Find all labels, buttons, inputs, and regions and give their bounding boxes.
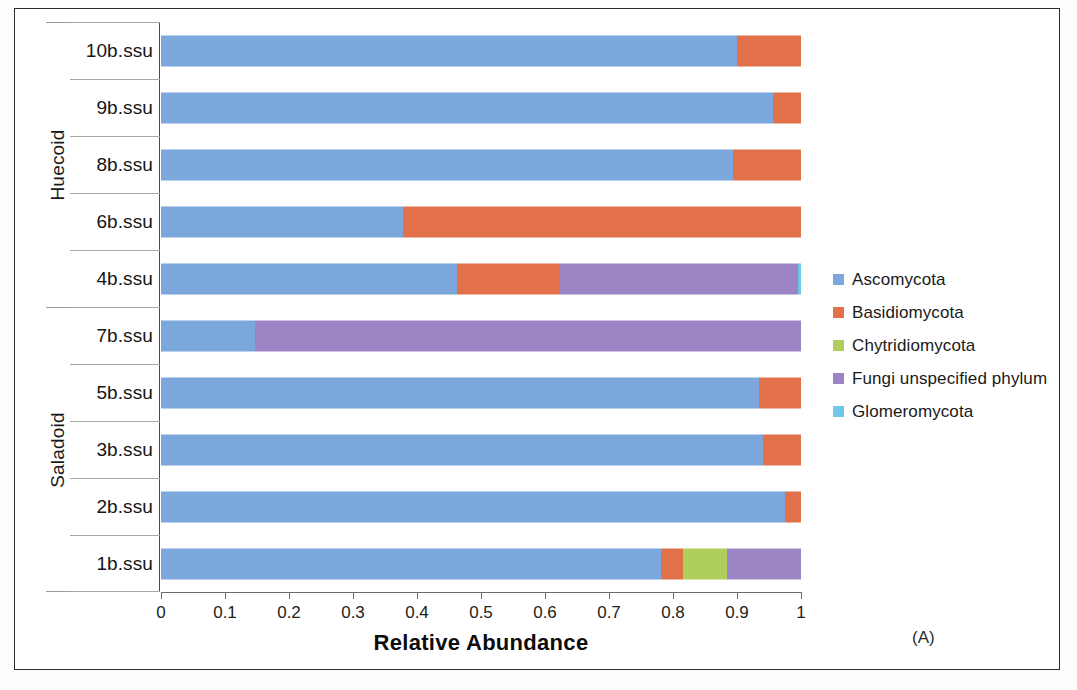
bar-segment-ascomycota bbox=[161, 320, 255, 351]
category-label: 8b.ssu bbox=[96, 154, 153, 176]
bar-segment-ascomycota bbox=[161, 548, 661, 579]
stacked-bar bbox=[161, 35, 801, 66]
category-label: 5b.ssu bbox=[96, 382, 153, 404]
panel-label: (A) bbox=[912, 628, 935, 648]
group-axis: HuecoidSaladoid bbox=[46, 22, 70, 592]
bar-row-10b.ssu bbox=[161, 22, 801, 79]
bar-segment-basidiomycota bbox=[737, 35, 801, 66]
bar-segment-ascomycota bbox=[161, 263, 457, 294]
bar-segment-ascomycota bbox=[161, 434, 763, 465]
x-axis-title: Relative Abundance bbox=[161, 630, 801, 656]
x-tick-0.9 bbox=[737, 592, 738, 599]
group-band-saladoid: Saladoid bbox=[46, 307, 70, 592]
bar-segment-basidiomycota bbox=[403, 206, 801, 237]
bar-segment-fungi-unspecified-phylum bbox=[255, 320, 801, 351]
x-tick-0.4 bbox=[417, 592, 418, 599]
bar-segment-fungi-unspecified-phylum bbox=[727, 548, 801, 579]
category-label: 2b.ssu bbox=[96, 496, 153, 518]
x-tick-0.6 bbox=[545, 592, 546, 599]
bar-segment-ascomycota bbox=[161, 35, 737, 66]
category-axis: 10b.ssu9b.ssu8b.ssu6b.ssu4b.ssu7b.ssu5b.… bbox=[70, 22, 160, 592]
legend-swatch-icon bbox=[833, 274, 844, 285]
x-tick-0.1 bbox=[225, 592, 226, 599]
bar-segment-basidiomycota bbox=[759, 377, 801, 408]
scan-page-background: HuecoidSaladoid 10b.ssu9b.ssu8b.ssu6b.ss… bbox=[0, 0, 1077, 690]
bar-row-2b.ssu bbox=[161, 478, 801, 535]
category-label: 3b.ssu bbox=[96, 439, 153, 461]
bar-row-9b.ssu bbox=[161, 79, 801, 136]
x-tick-label: 0.2 bbox=[277, 603, 301, 623]
stacked-bar bbox=[161, 320, 801, 351]
group-band-huecoid: Huecoid bbox=[46, 22, 70, 307]
bar-row-3b.ssu bbox=[161, 421, 801, 478]
bar-segment-basidiomycota bbox=[733, 149, 801, 180]
x-tick-0.8 bbox=[673, 592, 674, 599]
group-label: Saladoid bbox=[47, 412, 69, 488]
category-tick-1b.ssu: 1b.ssu bbox=[70, 535, 160, 592]
legend-swatch-icon bbox=[833, 373, 844, 384]
x-tick-label: 0.8 bbox=[661, 603, 685, 623]
category-tick-6b.ssu: 6b.ssu bbox=[70, 193, 160, 250]
bar-segment-chytridiomycota bbox=[683, 548, 727, 579]
stacked-bar bbox=[161, 491, 801, 522]
x-tick-0.7 bbox=[609, 592, 610, 599]
bar-row-5b.ssu bbox=[161, 364, 801, 421]
x-tick-label: 0.6 bbox=[533, 603, 557, 623]
x-tick-label: 0 bbox=[156, 603, 165, 623]
category-tick-4b.ssu: 4b.ssu bbox=[70, 250, 160, 307]
x-tick-0.3 bbox=[353, 592, 354, 599]
stacked-bar bbox=[161, 548, 801, 579]
stacked-bar bbox=[161, 377, 801, 408]
bar-segment-ascomycota bbox=[161, 206, 403, 237]
stacked-bar bbox=[161, 206, 801, 237]
bar-segment-fungi-unspecified-phylum bbox=[560, 263, 799, 294]
bar-row-8b.ssu bbox=[161, 136, 801, 193]
group-label: Huecoid bbox=[47, 129, 69, 200]
stacked-bar bbox=[161, 434, 801, 465]
stacked-bar bbox=[161, 92, 801, 123]
legend-item-glomeromycota: Glomeromycota bbox=[833, 395, 1058, 428]
x-tick-label: 0.5 bbox=[469, 603, 493, 623]
category-label: 7b.ssu bbox=[96, 325, 153, 347]
category-tick-7b.ssu: 7b.ssu bbox=[70, 307, 160, 364]
category-label: 9b.ssu bbox=[96, 97, 153, 119]
legend-label: Chytridiomycota bbox=[852, 336, 975, 356]
bar-row-4b.ssu bbox=[161, 250, 801, 307]
bar-segment-basidiomycota bbox=[773, 92, 801, 123]
x-tick-1 bbox=[801, 592, 802, 599]
legend-swatch-icon bbox=[833, 307, 844, 318]
bar-segment-ascomycota bbox=[161, 92, 773, 123]
bar-row-6b.ssu bbox=[161, 193, 801, 250]
category-tick-3b.ssu: 3b.ssu bbox=[70, 421, 160, 478]
category-label: 10b.ssu bbox=[86, 40, 153, 62]
bar-segment-ascomycota bbox=[161, 149, 733, 180]
legend-swatch-icon bbox=[833, 340, 844, 351]
legend-swatch-icon bbox=[833, 406, 844, 417]
category-tick-8b.ssu: 8b.ssu bbox=[70, 136, 160, 193]
category-tick-10b.ssu: 10b.ssu bbox=[70, 22, 160, 79]
bar-segment-ascomycota bbox=[161, 491, 785, 522]
legend-item-basidiomycota: Basidiomycota bbox=[833, 296, 1058, 329]
legend-item-fungi-unspecified-phylum: Fungi unspecified phylum bbox=[833, 362, 1058, 395]
bar-row-1b.ssu bbox=[161, 535, 801, 592]
category-label: 6b.ssu bbox=[96, 211, 153, 233]
category-tick-5b.ssu: 5b.ssu bbox=[70, 364, 160, 421]
bar-segment-basidiomycota bbox=[661, 548, 683, 579]
category-label: 1b.ssu bbox=[96, 553, 153, 575]
plot-area bbox=[161, 22, 801, 592]
chart-legend: AscomycotaBasidiomycotaChytridiomycotaFu… bbox=[833, 263, 1058, 428]
legend-label: Ascomycota bbox=[852, 270, 946, 290]
x-tick-0.5 bbox=[481, 592, 482, 599]
x-tick-0 bbox=[161, 592, 162, 599]
x-tick-0.2 bbox=[289, 592, 290, 599]
legend-label: Glomeromycota bbox=[852, 402, 973, 422]
bar-row-7b.ssu bbox=[161, 307, 801, 364]
x-tick-label: 0.4 bbox=[405, 603, 429, 623]
legend-item-chytridiomycota: Chytridiomycota bbox=[833, 329, 1058, 362]
bar-segment-ascomycota bbox=[161, 377, 759, 408]
x-tick-label: 0.7 bbox=[597, 603, 621, 623]
category-tick-9b.ssu: 9b.ssu bbox=[70, 79, 160, 136]
stacked-bar bbox=[161, 263, 801, 294]
x-tick-label: 0.3 bbox=[341, 603, 365, 623]
legend-item-ascomycota: Ascomycota bbox=[833, 263, 1058, 296]
